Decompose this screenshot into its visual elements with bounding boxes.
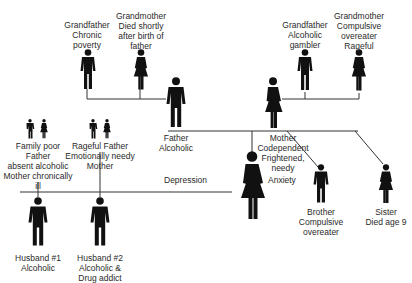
patient-depression-label: Depression xyxy=(164,175,207,185)
patient-anxiety-label: Anxiety xyxy=(268,175,296,185)
husband2-mother-female-icon xyxy=(102,119,112,139)
paternal-grandmother-female-icon xyxy=(132,49,150,91)
husband1-mother-female-icon xyxy=(39,119,49,139)
husband1-male-icon xyxy=(28,197,48,247)
mother-label: Mother Codependent Frightened, needy xyxy=(257,133,308,173)
father-label: Father Alcoholic xyxy=(159,133,193,153)
maternal-grandfather-label: Grandfather Alcoholic gambler xyxy=(282,20,327,50)
husband2-father-male-icon xyxy=(88,119,98,139)
maternal-grandmother-label: Grandmother Compulsive overeater Rageful xyxy=(334,11,384,51)
husband2-label: Husband #2 Alcoholic & Drug addict xyxy=(77,253,123,283)
maternal-grandfather-male-icon xyxy=(297,49,313,92)
brother-label: Brother Compulsive overeater xyxy=(299,207,343,237)
paternal-grandfather-label: Grandfather Chronic poverty xyxy=(64,20,109,50)
paternal-grandfather-male-icon xyxy=(80,49,96,91)
mother-female-icon xyxy=(262,77,284,129)
sister-label: Sister Died age 9 xyxy=(365,207,406,227)
husband1-family-label: Family poor Father absent alcoholic Moth… xyxy=(4,141,73,191)
paternal-grandmother-label: Grandmother Died shortly after birth of … xyxy=(116,11,166,51)
brother-male-icon xyxy=(313,164,329,204)
husband2-male-icon xyxy=(90,197,110,247)
husband1-label: Husband #1 Alcoholic xyxy=(15,253,61,273)
maternal-grandmother-female-icon xyxy=(350,49,368,92)
father-male-icon xyxy=(166,77,186,129)
husband1-father-male-icon xyxy=(25,119,35,139)
sister-female-icon xyxy=(377,164,395,204)
husband2-family-label: Rageful Father Emotionally needy Mother xyxy=(65,141,134,171)
